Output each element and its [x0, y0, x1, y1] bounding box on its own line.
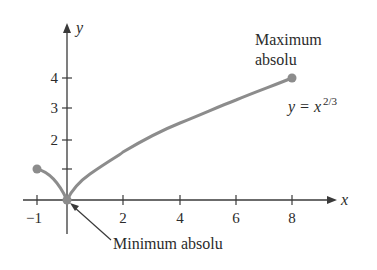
x-tick-label: 4 — [176, 210, 184, 226]
x-tick-label: 8 — [288, 210, 296, 226]
y-tick-label: 3 — [51, 100, 59, 116]
function-label: y = x2/3 — [286, 95, 338, 116]
endpoint-left — [33, 165, 42, 174]
x-axis-arrow-icon — [327, 196, 337, 204]
maximum-point — [288, 74, 297, 83]
x-axis-label: x — [340, 191, 348, 208]
y-axis-arrow-icon — [63, 23, 71, 33]
max-label-line2: absolu — [255, 51, 297, 68]
x-tick-label: −1 — [26, 210, 42, 226]
chart: −1 2 4 6 8 2 3 4 x y Maximum absolu y = … — [0, 0, 377, 270]
max-label-line1: Maximum — [255, 31, 322, 48]
y-tick-label: 2 — [51, 132, 59, 148]
y-axis-label: y — [74, 19, 84, 37]
curve — [37, 78, 292, 200]
x-tick-label: 2 — [119, 210, 127, 226]
y-tick-label: 4 — [51, 70, 59, 86]
min-label: Minimum absolu — [113, 235, 223, 252]
x-tick-label: 6 — [232, 210, 240, 226]
min-pointer-line — [74, 207, 111, 240]
